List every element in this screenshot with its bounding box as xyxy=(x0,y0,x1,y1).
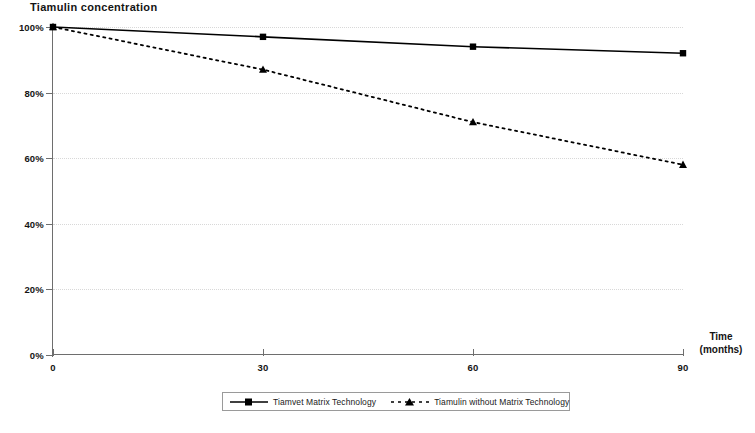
data-point xyxy=(469,118,477,125)
chart-legend: Tiamvet Matrix Technology Tiamulin witho… xyxy=(222,392,570,411)
legend-sample-dotted-triangle-icon xyxy=(390,397,430,407)
legend-label-1: Tiamulin without Matrix Technology xyxy=(434,397,569,407)
legend-entry-0: Tiamvet Matrix Technology xyxy=(229,397,376,407)
series-layer xyxy=(0,0,755,433)
legend-sample-solid-square-icon xyxy=(229,397,269,407)
data-point xyxy=(470,43,476,49)
legend-entry-1: Tiamulin without Matrix Technology xyxy=(390,397,569,407)
series-line-tiamulin-without-matrix-technology xyxy=(53,27,683,165)
chart-container: Tiamulin concentration 100% 80% 60% 40% … xyxy=(0,0,755,433)
data-point xyxy=(260,34,266,40)
legend-label-0: Tiamvet Matrix Technology xyxy=(273,397,376,407)
series-line-tiamvet-matrix-technology xyxy=(53,27,683,53)
data-point xyxy=(680,50,686,56)
series-markers-tiamvet-matrix-technology xyxy=(50,24,686,57)
